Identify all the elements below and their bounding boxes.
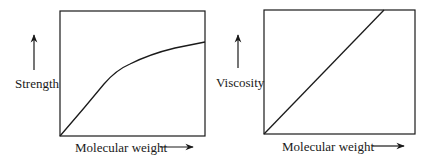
diagram-canvas <box>0 0 427 162</box>
strength-curve <box>60 42 205 136</box>
viscosity-x-label: Molecular weight <box>282 140 374 153</box>
viscosity-line <box>264 10 384 134</box>
strength-plot-frame <box>60 11 205 136</box>
viscosity-plot-frame <box>264 10 415 134</box>
strength-x-label: Molecular weight <box>75 141 167 154</box>
viscosity-panel <box>238 10 415 146</box>
strength-y-label: Strength <box>15 77 59 90</box>
strength-panel <box>34 11 205 147</box>
viscosity-y-label: Viscosity <box>216 76 264 89</box>
